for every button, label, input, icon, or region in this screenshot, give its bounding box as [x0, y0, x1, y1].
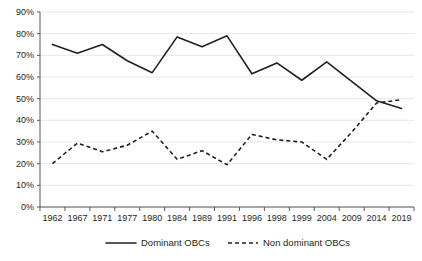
x-tick-label: 1962	[42, 213, 62, 223]
x-tick-label: 2004	[317, 213, 337, 223]
x-tick-label: 1998	[267, 213, 287, 223]
x-tick-label: 1980	[142, 213, 162, 223]
chart-legend: Dominant OBCsNon dominant OBCs	[106, 237, 350, 248]
x-tick-label: 1996	[242, 213, 262, 223]
x-tick-label: 2019	[392, 213, 412, 223]
gridlines	[40, 12, 414, 207]
legend-label: Non dominant OBCs	[263, 237, 350, 248]
chart-canvas: 0%10%20%30%40%50%60%70%80%90% 1962196719…	[0, 0, 422, 261]
y-tick-label: 70%	[16, 50, 34, 60]
legend-label: Dominant OBCs	[141, 237, 210, 248]
x-tick-label: 1999	[292, 213, 312, 223]
y-tick-label: 50%	[16, 94, 34, 104]
y-tick-label: 30%	[16, 137, 34, 147]
y-tick-labels: 0%10%20%30%40%50%60%70%80%90%	[16, 7, 34, 212]
y-tick-label: 60%	[16, 72, 34, 82]
x-tick-label: 1977	[117, 213, 137, 223]
x-axis	[40, 207, 414, 211]
x-tick-label: 1967	[67, 213, 87, 223]
y-tick-label: 0%	[21, 202, 34, 212]
x-tick-labels: 1962196719711977198019841989199119961998…	[42, 213, 411, 223]
x-tick-label: 1991	[217, 213, 237, 223]
x-tick-label: 2014	[367, 213, 387, 223]
line-chart: 0%10%20%30%40%50%60%70%80%90% 1962196719…	[0, 0, 422, 261]
x-tick-label: 1984	[167, 213, 187, 223]
x-tick-label: 1971	[92, 213, 112, 223]
y-axis	[37, 12, 40, 207]
x-tick-label: 2009	[342, 213, 362, 223]
y-tick-label: 90%	[16, 7, 34, 17]
y-tick-label: 40%	[16, 115, 34, 125]
series-line-solid	[52, 36, 401, 109]
y-tick-label: 20%	[16, 159, 34, 169]
series-line-dashed	[52, 100, 401, 165]
y-tick-label: 80%	[16, 29, 34, 39]
y-tick-label: 10%	[16, 180, 34, 190]
x-tick-label: 1989	[192, 213, 212, 223]
